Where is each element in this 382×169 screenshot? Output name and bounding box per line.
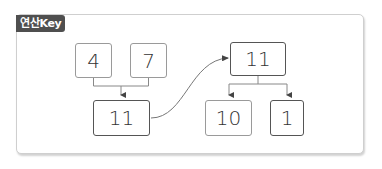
operand-box-1: 4 bbox=[75, 43, 112, 78]
sum-box: 11 bbox=[93, 100, 150, 136]
operand-box-2: 7 bbox=[130, 43, 167, 78]
split-source-box: 11 bbox=[230, 42, 286, 76]
split-part-box-1: 10 bbox=[205, 100, 252, 136]
connector-lines bbox=[0, 0, 382, 169]
split-part-box-2: 1 bbox=[270, 100, 304, 136]
